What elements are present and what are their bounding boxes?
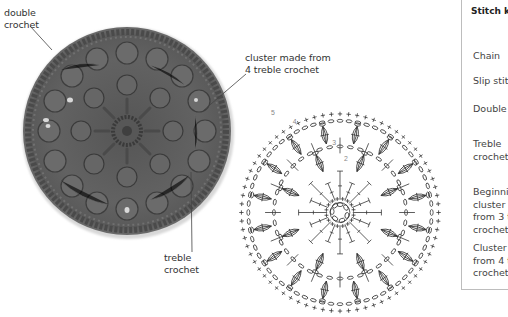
label-line: crochet <box>164 264 199 276</box>
row-number-3: 3 <box>332 139 336 146</box>
label-line: treble <box>164 252 199 264</box>
label-line: crochet <box>4 19 39 31</box>
crochet-motif-photo <box>0 0 250 317</box>
key-item-chain: Chain <box>473 50 500 63</box>
label-double-crochet: double crochet <box>4 7 39 31</box>
key-item-double-crochet: Double <box>473 103 507 116</box>
stitch-key-title: Stitch k <box>471 6 508 16</box>
label-line: double <box>4 7 39 19</box>
key-item-slip-stitch: Slip stit <box>473 75 508 88</box>
row-number-2: 2 <box>344 155 348 162</box>
row-number-4: 4 <box>293 118 297 125</box>
label-line: cluster made from <box>245 52 331 64</box>
label-treble-crochet: treble crochet <box>164 252 199 276</box>
label-cluster-4-treble: cluster made from 4 treble crochet <box>245 52 331 76</box>
key-item-cluster-4-treble: Cluster from 4 t crochet <box>473 242 508 280</box>
foundation-ring <box>330 202 350 223</box>
row-number-5: 5 <box>271 109 275 116</box>
label-line: 4 treble crochet <box>245 64 331 76</box>
key-item-beginning-cluster: Beginni cluster i from 3 t crochet <box>473 186 508 236</box>
key-item-treble-crochet: Treble crochet <box>473 138 508 163</box>
crochet-symbol-chart: 2 3 4 5 <box>232 108 448 317</box>
